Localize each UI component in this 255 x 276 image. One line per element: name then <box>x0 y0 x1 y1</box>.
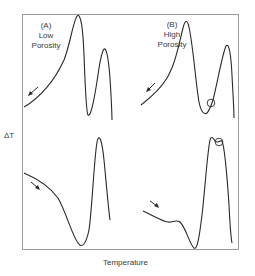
arrow-down-right-icon <box>31 182 40 190</box>
panel-b-line2: High <box>150 30 194 40</box>
curve-b-lower <box>143 137 232 248</box>
panel-a-id: (A) <box>25 21 67 31</box>
curve-a-lower <box>24 138 110 246</box>
arrow-down-right-icon <box>150 201 159 208</box>
panel-a-line3: Porosity <box>25 41 67 51</box>
x-axis-label: Temperature <box>103 258 148 267</box>
arrow-down-left-icon <box>28 87 38 96</box>
dta-figure: (A) Low Porosity (B) High Porosity ΔT Te… <box>0 0 255 276</box>
panel-b-line3: Porosity <box>150 40 194 50</box>
panel-b-id: (B) <box>150 20 194 30</box>
arrow-down-left-icon <box>146 83 155 92</box>
panel-label-b: (B) High Porosity <box>150 20 194 50</box>
panel-label-a: (A) Low Porosity <box>25 21 67 51</box>
y-axis-label: ΔT <box>4 131 14 140</box>
panel-a-line2: Low <box>25 31 67 41</box>
